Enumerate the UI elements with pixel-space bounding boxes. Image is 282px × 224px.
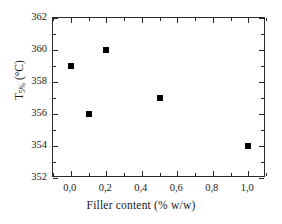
y-tick-label: 358 <box>25 76 47 87</box>
axis-tick <box>266 173 267 176</box>
axis-tick <box>71 171 72 176</box>
axis-tick <box>142 171 143 176</box>
axis-tick <box>231 173 232 176</box>
axis-tick <box>53 162 56 163</box>
axis-tick <box>195 173 196 176</box>
y-axis-title-unit: (°C) <box>13 60 25 83</box>
axis-tick <box>53 178 58 179</box>
axis-tick <box>261 66 264 67</box>
y-tick-label: 356 <box>25 108 47 119</box>
axis-tick <box>177 171 178 176</box>
axis-tick <box>259 18 264 19</box>
axis-tick <box>160 18 161 21</box>
y-axis-title-symbol: T <box>13 93 25 100</box>
data-point <box>68 63 74 69</box>
axis-tick <box>261 34 264 35</box>
axis-tick <box>261 98 264 99</box>
data-point <box>86 111 92 117</box>
plot-area <box>52 17 265 177</box>
y-tick-label: 352 <box>25 172 47 183</box>
data-point <box>157 95 163 101</box>
axis-tick <box>106 18 107 23</box>
x-axis-title: Filler content (% w/w) <box>0 199 282 211</box>
x-tick-label: 0,8 <box>197 183 227 194</box>
axis-tick <box>53 34 56 35</box>
axis-tick <box>53 82 58 83</box>
axis-tick <box>53 130 56 131</box>
axis-tick <box>266 18 267 21</box>
axis-tick <box>53 66 56 67</box>
x-tick-label: 0,6 <box>161 183 191 194</box>
axis-tick <box>71 18 72 23</box>
axis-tick <box>213 18 214 23</box>
x-tick-label: 0,4 <box>126 183 156 194</box>
axis-tick <box>106 171 107 176</box>
axis-tick <box>259 178 264 179</box>
axis-tick <box>259 50 264 51</box>
axis-tick <box>213 171 214 176</box>
x-tick-label: 1,0 <box>232 183 262 194</box>
axis-tick <box>259 114 264 115</box>
axis-tick <box>261 130 264 131</box>
axis-tick <box>177 18 178 23</box>
data-point <box>245 143 251 149</box>
axis-tick <box>53 173 54 176</box>
axis-tick <box>53 114 58 115</box>
axis-tick <box>89 18 90 21</box>
y-tick-label: 354 <box>25 140 47 151</box>
axis-tick <box>53 98 56 99</box>
axis-tick <box>124 18 125 21</box>
axis-tick <box>89 173 90 176</box>
axis-tick <box>124 173 125 176</box>
chart-figure: T5% (°C) Filler content (% w/w) 35235435… <box>0 0 282 224</box>
y-tick-label: 362 <box>25 12 47 23</box>
axis-tick <box>259 146 264 147</box>
axis-tick <box>248 171 249 176</box>
axis-tick <box>53 18 54 21</box>
axis-tick <box>160 173 161 176</box>
axis-tick <box>248 18 249 23</box>
axis-tick <box>53 146 58 147</box>
axis-tick <box>259 82 264 83</box>
x-tick-label: 0,2 <box>90 183 120 194</box>
axis-tick <box>261 162 264 163</box>
y-tick-label: 360 <box>25 44 47 55</box>
data-point <box>103 47 109 53</box>
axis-tick <box>195 18 196 21</box>
axis-tick <box>142 18 143 23</box>
axis-tick <box>231 18 232 21</box>
axis-tick <box>53 50 58 51</box>
x-tick-label: 0,0 <box>55 183 85 194</box>
